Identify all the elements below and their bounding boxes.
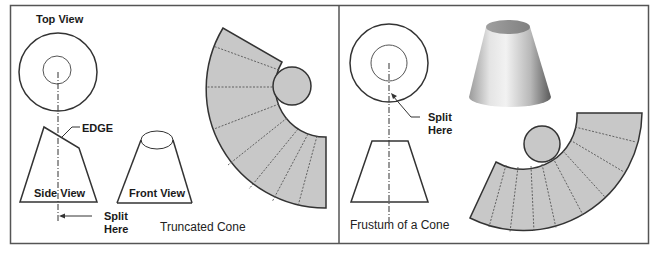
- truncated-cone-panel: Top View EDGE Side View Front View Split…: [19, 13, 326, 235]
- pattern-top-disc: [273, 67, 311, 105]
- cone-patterns-diagram: Top View EDGE Side View Front View Split…: [0, 0, 654, 255]
- frustum-flat-pattern: [470, 113, 642, 232]
- frustum-pattern-top-disc: [524, 126, 560, 162]
- frustum-panel: Split Here Frustum of a Cone: [350, 20, 642, 232]
- edge-leader: [62, 127, 80, 137]
- truncated-cone-flat-pattern: [206, 28, 326, 208]
- frustum-3d-render: [469, 20, 551, 107]
- split-here-arrow: [59, 214, 92, 219]
- top-view-inner-circle: [43, 56, 71, 84]
- front-view-top-ellipse: [141, 131, 173, 149]
- frustum-split-label-line2: Here: [428, 124, 452, 136]
- frustum-split-label-line1: Split: [428, 111, 452, 123]
- frustum-split-arrow: [391, 93, 420, 117]
- edge-label: EDGE: [82, 122, 113, 134]
- front-view-label: Front View: [129, 187, 185, 199]
- frustum-title: Frustum of a Cone: [350, 218, 450, 232]
- side-view-label: Side View: [34, 187, 86, 199]
- split-label-line1: Split: [104, 210, 128, 222]
- truncated-cone-title: Truncated Cone: [160, 220, 246, 234]
- top-view-label: Top View: [36, 13, 84, 25]
- split-label-line2: Here: [104, 223, 128, 235]
